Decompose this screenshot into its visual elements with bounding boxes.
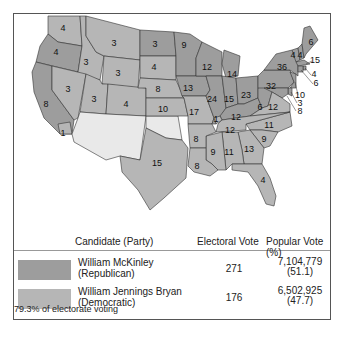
svg-text:9: 9 [181, 40, 186, 50]
svg-text:8: 8 [43, 99, 48, 109]
svg-text:23: 23 [241, 90, 251, 100]
svg-text:6: 6 [308, 37, 313, 47]
svg-text:14: 14 [227, 69, 237, 79]
us-electoral-map: 4 4 8 1 3 3 3 3 3 4 3 4 8 10 9 13 17 12 … [0, 0, 345, 230]
state-rhode-island [303, 66, 306, 70]
svg-text:9: 9 [210, 147, 215, 157]
header-electoral-vote: Electoral Vote [197, 236, 259, 247]
svg-text:3: 3 [152, 39, 157, 49]
svg-text:6: 6 [257, 102, 262, 112]
svg-text:1: 1 [60, 128, 65, 138]
svg-text:8: 8 [194, 161, 199, 171]
state-delaware [288, 88, 292, 96]
state-wyoming [102, 56, 140, 88]
svg-text:4: 4 [260, 175, 265, 185]
electoral-vote-cell: 176 [209, 292, 259, 303]
svg-text:3: 3 [115, 68, 120, 78]
svg-text:15: 15 [310, 55, 320, 65]
popular-vote-cell: 6,502,925 (47.7) [272, 286, 328, 306]
svg-text:12: 12 [225, 125, 235, 135]
popular-vote-percent: (47.7) [272, 296, 328, 306]
popular-vote-percent: (51.1) [272, 267, 328, 277]
svg-text:3: 3 [83, 57, 88, 67]
svg-text:8: 8 [297, 106, 302, 116]
svg-text:12: 12 [268, 102, 278, 112]
candidate-name: William Jennings Bryan [78, 286, 182, 297]
svg-text:4: 4 [123, 99, 128, 109]
svg-text:3: 3 [91, 94, 96, 104]
svg-text:4: 4 [60, 23, 65, 33]
electoral-vote-cell: 271 [209, 263, 259, 274]
svg-text:17: 17 [189, 107, 199, 117]
candidate-name: William McKinley [78, 257, 154, 268]
svg-text:24: 24 [207, 94, 217, 104]
turnout-note: 79.3% of electorate voting [14, 304, 118, 314]
svg-text:13: 13 [183, 83, 193, 93]
state-florida [232, 164, 276, 206]
svg-text:8: 8 [193, 134, 198, 144]
svg-text:1: 1 [213, 114, 218, 124]
swatch-republican [18, 260, 71, 280]
svg-text:11: 11 [264, 120, 273, 130]
svg-text:36: 36 [277, 62, 287, 72]
candidate-party: (Republican) [78, 268, 154, 279]
svg-text:8: 8 [155, 84, 160, 94]
svg-text:12: 12 [231, 112, 241, 122]
svg-text:6: 6 [313, 78, 318, 88]
svg-text:4: 4 [151, 62, 156, 72]
svg-text:4: 4 [297, 50, 302, 60]
state-north-dakota [140, 30, 176, 56]
table-header: Candidate (Party) Electoral Vote Popular… [14, 228, 330, 251]
svg-text:15: 15 [152, 158, 162, 168]
state-south-dakota [140, 56, 176, 80]
territory-southwest [72, 112, 146, 160]
popular-vote-cell: 7,104,779 (51.1) [272, 257, 328, 277]
svg-text:15: 15 [224, 94, 234, 104]
svg-text:3: 3 [111, 38, 116, 48]
svg-text:3: 3 [65, 84, 70, 94]
svg-text:11: 11 [224, 147, 233, 157]
candidate-cell: William McKinley (Republican) [78, 257, 154, 279]
svg-text:4: 4 [290, 50, 295, 60]
svg-text:12: 12 [202, 62, 212, 72]
svg-text:13: 13 [244, 144, 254, 154]
header-candidate: Candidate (Party) [75, 236, 153, 247]
svg-text:4: 4 [53, 47, 58, 57]
svg-text:32: 32 [266, 81, 276, 91]
svg-text:9: 9 [261, 134, 266, 144]
svg-text:10: 10 [158, 104, 168, 114]
